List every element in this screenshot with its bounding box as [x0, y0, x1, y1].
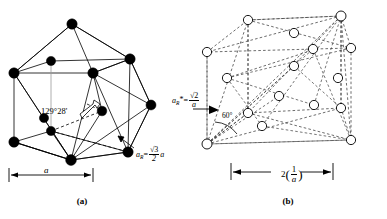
dimension-paren-close: ): [298, 167, 302, 182]
lattice-node: [222, 73, 231, 82]
ar-denominator: 2: [149, 155, 159, 163]
atom-node: [66, 155, 77, 166]
panel-a-angle-label: 129°28': [41, 107, 67, 116]
panel-a-dimension-bar: [9, 168, 93, 182]
lattice-node: [333, 73, 342, 82]
panel-a-ar-leader: [118, 136, 134, 148]
panel-b-dimension-label: 2(1a): [281, 165, 303, 185]
panel-a-ar-equation: aR=√32a: [136, 146, 164, 164]
panel-b-diagram: [193, 0, 387, 219]
ar-equals: =: [143, 150, 148, 159]
lattice-node: [243, 108, 252, 117]
panel-b-angle-label: 60°: [222, 112, 233, 120]
panel-a-diagram: [0, 0, 193, 219]
panel-a-atoms: [9, 19, 156, 166]
lattice-node: [289, 61, 298, 70]
dimension-fraction: 1a: [291, 165, 298, 185]
atom-node: [97, 106, 107, 116]
lattice-node: [257, 121, 266, 130]
ar-tail: a: [160, 150, 164, 159]
panel-b-caption: (b): [268, 196, 308, 206]
lattice-node: [308, 44, 317, 53]
atom-node: [46, 56, 55, 65]
lattice-node: [289, 28, 298, 37]
lattice-node: [336, 103, 345, 112]
atom-node: [9, 68, 19, 78]
dimension-paren-open: (: [286, 167, 290, 182]
panel-b-ar-star-equation: aR*=√2a: [172, 92, 200, 110]
ar-star-equals: =: [183, 96, 188, 105]
ar-star-denominator: a: [189, 101, 199, 109]
panel-b-angle-arc: [215, 122, 237, 134]
dimension-denominator: a: [291, 175, 298, 184]
lattice-node: [346, 43, 355, 52]
lattice-node: [202, 139, 212, 149]
lattice-node: [346, 135, 355, 144]
atom-node: [123, 147, 133, 157]
panel-a-caption: (a): [62, 196, 102, 206]
figure-root: 129°28' aR=√32a a aR*=√2a 60° 2(1a) (a) …: [0, 0, 387, 219]
atom-node: [67, 19, 77, 29]
atom-node: [9, 137, 19, 147]
atom-node: [146, 100, 156, 110]
atom-node: [46, 126, 55, 135]
ar-star-fraction: √2a: [189, 92, 199, 110]
ar-fraction: √32: [149, 146, 159, 164]
panel-a-hidden-edges: [14, 59, 130, 160]
lattice-node: [336, 11, 346, 21]
lattice-node: [243, 15, 252, 24]
lattice-node: [274, 91, 283, 100]
panel-a-dimension-label: a: [44, 166, 49, 175]
atom-node: [88, 68, 98, 78]
atom-node: [125, 54, 135, 64]
lattice-node: [309, 100, 318, 109]
lattice-node: [202, 47, 211, 56]
